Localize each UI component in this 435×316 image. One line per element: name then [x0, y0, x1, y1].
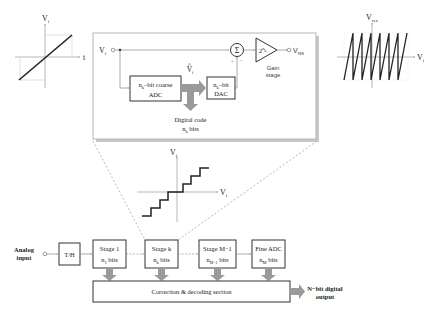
stage-detail-panel: Vi nk–bit coarse ADC Vi ^ nk–bit DAC Σ +…	[93, 33, 319, 142]
coarse-adc-line2: ADC	[149, 91, 163, 98]
track-hold-label: T/H	[64, 251, 75, 258]
digital-code-line1: Digital code	[175, 116, 207, 123]
zoom-projection-lines	[93, 141, 317, 240]
input-waveform-plot: Vi t	[15, 14, 86, 88]
pipeline-adc-diagram: Vi t Vi nk–bit coarse ADC Vi ^ nk–bit DA…	[0, 0, 435, 316]
input-terminal	[111, 48, 115, 52]
output-terminal	[287, 48, 291, 52]
sawtooth-line	[344, 33, 407, 80]
hat-mark: ^	[188, 62, 191, 68]
stage-m-minus-1-title: Stage M−1	[203, 245, 232, 252]
gain-label-line2: stage	[266, 72, 281, 78]
gain-label-line1: Gain	[267, 65, 280, 71]
pipeline-chain: Analog input T/H Stage 1 n1 bits Stage k…	[14, 240, 343, 302]
fine-adc-block: Fine ADC nM bits	[252, 240, 285, 268]
correction-decoding-label: Correction & decoding section	[152, 288, 233, 295]
stage-k-block: Stage k nk bits	[145, 240, 178, 268]
stage-m-minus-1-block: Stage M−1 nM−1 bits	[199, 240, 236, 268]
residue-waveform-plot: Vres Vi	[337, 13, 425, 88]
y-axis-label: Vres	[366, 13, 378, 23]
y-axis-label: Vi	[170, 148, 178, 158]
digital-output-arrow	[290, 284, 305, 299]
quantizer-transfer-plot: Vi Vi	[137, 148, 228, 222]
stage-k-title: Stage k	[152, 245, 172, 252]
stage-1-title: Stage 1	[100, 245, 119, 252]
analog-input-terminal	[43, 252, 47, 256]
x-axis-label: t	[83, 53, 86, 62]
x-axis-label: Vi	[220, 188, 228, 198]
panel-frame	[93, 33, 316, 139]
stage-1-block: Stage 1 n1 bits	[93, 240, 126, 268]
analog-input-line2: input	[17, 254, 33, 261]
stage-output-arrows	[102, 268, 276, 281]
digital-output-line1: N−bit digital	[307, 285, 342, 292]
y-axis-label: Vi	[42, 14, 50, 24]
ramp-line	[19, 35, 72, 80]
digital-output-line2: output	[316, 293, 335, 300]
x-axis-label: Vi	[417, 53, 425, 63]
sigma-symbol: Σ	[235, 46, 240, 55]
fine-adc-title: Fine ADC	[255, 245, 282, 252]
analog-input-line1: Analog	[14, 246, 35, 253]
dac-line2: DAC	[214, 90, 228, 97]
